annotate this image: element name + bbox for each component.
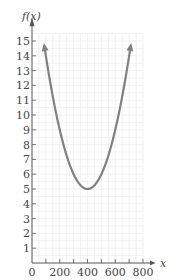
y-tick-label: 14: [16, 50, 30, 63]
x-tick-label: 200: [49, 266, 70, 279]
y-tick-label: 9: [23, 124, 30, 137]
tick-labels: 0200400600800123456789101112131415: [16, 35, 154, 279]
x-tick-label: 0: [29, 266, 36, 279]
x-axis-arrow-icon: [150, 261, 156, 266]
x-tick-label: 800: [133, 266, 154, 279]
x-axis-title: x: [160, 257, 167, 270]
y-tick-label: 1: [23, 242, 30, 255]
y-tick-label: 7: [23, 153, 30, 166]
parabola-chart: 0200400600800123456789101112131415 f(x) …: [0, 0, 177, 280]
x-tick-label: 600: [105, 266, 126, 279]
axes: [30, 17, 156, 265]
y-tick-label: 12: [16, 79, 30, 92]
right-arrow-icon: [126, 43, 133, 51]
y-tick-label: 4: [23, 198, 30, 211]
left-arrow-icon: [42, 43, 49, 51]
y-tick-label: 8: [23, 139, 30, 152]
y-tick-label: 10: [16, 109, 30, 122]
y-tick-label: 6: [23, 168, 30, 181]
y-axis-title: f(x): [21, 10, 41, 23]
y-tick-label: 5: [23, 183, 30, 196]
y-tick-label: 15: [16, 35, 30, 48]
y-tick-label: 13: [16, 65, 30, 78]
y-tick-label: 11: [16, 94, 30, 107]
x-tick-label: 400: [77, 266, 98, 279]
y-tick-label: 2: [23, 227, 30, 240]
y-tick-label: 3: [23, 213, 30, 226]
